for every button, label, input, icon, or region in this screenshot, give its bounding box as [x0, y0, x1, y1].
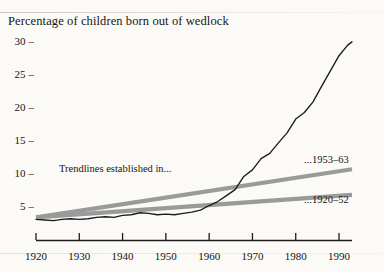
chart-figure: Percentage of children born out of wedlo… [0, 0, 384, 272]
x-axis-tick-1960: 1960 [189, 250, 229, 262]
annotation-trendlines-note: Trendlines established in... [59, 163, 171, 174]
x-axis-tick-1920: 1920 [16, 250, 56, 262]
x-axis-tick-1930: 1930 [59, 250, 99, 262]
x-axis-tick-1940: 1940 [103, 250, 143, 262]
annotation-upper-trendline: ...1953–63 [304, 154, 349, 165]
x-axis-tick-marks [36, 233, 339, 240]
x-axis-tick-1980: 1980 [276, 250, 316, 262]
plot-area [0, 0, 384, 272]
x-axis-tick-1950: 1950 [146, 250, 186, 262]
x-axis-tick-1970: 1970 [232, 250, 272, 262]
annotation-lower-trendline: ...1920–52 [304, 194, 349, 205]
x-axis [36, 233, 352, 241]
x-axis-tick-1990: 1990 [319, 250, 359, 262]
